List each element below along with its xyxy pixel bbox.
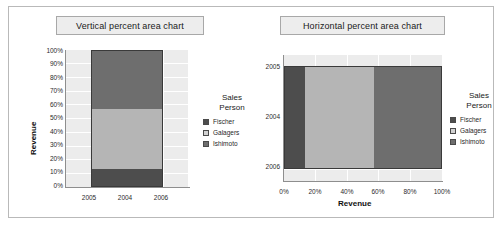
vertical-category-2004: 2004	[107, 194, 143, 201]
legend-label-galagers: Galagers	[460, 127, 486, 134]
legend-item-ishimoto[interactable]: Ishimoto	[448, 138, 502, 145]
legend-label-fischer: Fischer	[460, 116, 481, 123]
horizontal-tick-80: 80%	[398, 188, 422, 195]
vertical-tick-10: 10%	[37, 168, 63, 175]
legend-label-ishimoto: Ishimoto	[460, 138, 485, 145]
area-band-galagers	[91, 109, 163, 169]
vertical-chart-panel: Vertical percent area chart Revenue 100%…	[9, 7, 252, 217]
legend-label-fischer: Fischer	[213, 118, 234, 125]
legend-title-line1: Sales	[448, 91, 502, 101]
vertical-category-2005: 2005	[71, 194, 107, 201]
horizontal-chart-legend: Sales Person Fischer Galagers Ishimoto	[448, 91, 502, 149]
vertical-tick-20: 20%	[37, 155, 63, 162]
vertical-chart-y-axis-title: Revenue	[29, 122, 38, 155]
horizontal-category-2005: 2005	[254, 63, 280, 70]
vertical-tick-70: 70%	[37, 87, 63, 94]
horizontal-tick-20: 20%	[303, 188, 327, 195]
vertical-category-2006: 2006	[143, 194, 179, 201]
legend-swatch-fischer	[203, 119, 209, 125]
gridline	[163, 50, 164, 187]
vertical-chart-title: Vertical percent area chart	[76, 21, 184, 31]
vertical-chart-x-axis-line	[65, 187, 190, 188]
vertical-tick-80: 80%	[37, 74, 63, 81]
area-band-ishimoto	[374, 66, 442, 169]
area-band-galagers	[305, 66, 374, 169]
horizontal-tick-40: 40%	[335, 188, 359, 195]
legend-title: Sales Person	[448, 91, 502, 111]
horizontal-chart-title: Horizontal percent area chart	[303, 21, 422, 31]
horizontal-chart-x-axis-line	[283, 181, 443, 182]
horizontal-chart-panel: Horizontal percent area chart 2005 2004 …	[252, 7, 495, 217]
vertical-chart-y-axis-line	[65, 50, 66, 188]
vertical-chart-title-plate: Vertical percent area chart	[56, 16, 204, 35]
horizontal-chart-y-axis-line	[283, 55, 284, 182]
horizontal-tick-60: 60%	[366, 188, 390, 195]
legend-item-galagers[interactable]: Galagers	[448, 127, 502, 134]
legend-swatch-ishimoto	[203, 141, 209, 147]
horizontal-tick-0: 0%	[272, 188, 296, 195]
vertical-tick-30: 30%	[37, 141, 63, 148]
legend-swatch-galagers	[203, 130, 209, 136]
horizontal-tick-100: 100%	[429, 188, 455, 195]
area-band-fischer	[284, 66, 305, 169]
vertical-tick-40: 40%	[37, 128, 63, 135]
vertical-tick-90: 90%	[37, 60, 63, 67]
horizontal-chart-title-plate: Horizontal percent area chart	[280, 16, 445, 35]
legend-swatch-ishimoto	[450, 139, 456, 145]
horizontal-category-2006: 2006	[254, 163, 280, 170]
horizontal-chart-x-axis-title: Revenue	[338, 199, 371, 208]
legend-swatch-galagers	[450, 128, 456, 134]
page-frame: Vertical percent area chart Revenue 100%…	[8, 6, 494, 218]
vertical-tick-60: 60%	[37, 101, 63, 108]
legend-swatch-fischer	[450, 117, 456, 123]
vertical-tick-50: 50%	[37, 114, 63, 121]
vertical-tick-0: 0%	[37, 182, 63, 189]
vertical-chart-plot-area	[66, 50, 188, 187]
area-band-fischer	[91, 169, 163, 187]
vertical-tick-100: 100%	[37, 47, 63, 54]
area-band-ishimoto	[91, 50, 163, 109]
legend-label-galagers: Galagers	[213, 129, 239, 136]
legend-title-line2: Person	[448, 101, 502, 111]
gridline	[284, 169, 442, 170]
legend-label-ishimoto: Ishimoto	[213, 140, 238, 147]
horizontal-category-2004: 2004	[254, 113, 280, 120]
horizontal-chart-plot-area	[284, 55, 442, 181]
legend-item-fischer[interactable]: Fischer	[448, 116, 502, 123]
